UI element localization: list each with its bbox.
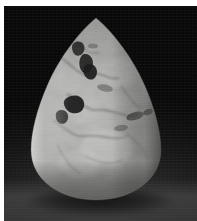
pear-shaped-cabochon-stone [29,16,163,202]
stone-silhouette-svg [29,16,163,202]
photograph-image-area [4,6,197,221]
photograph-frame: Grayscale studio photograph of a polishe… [0,0,197,221]
stone-bottom-shading [29,16,163,202]
